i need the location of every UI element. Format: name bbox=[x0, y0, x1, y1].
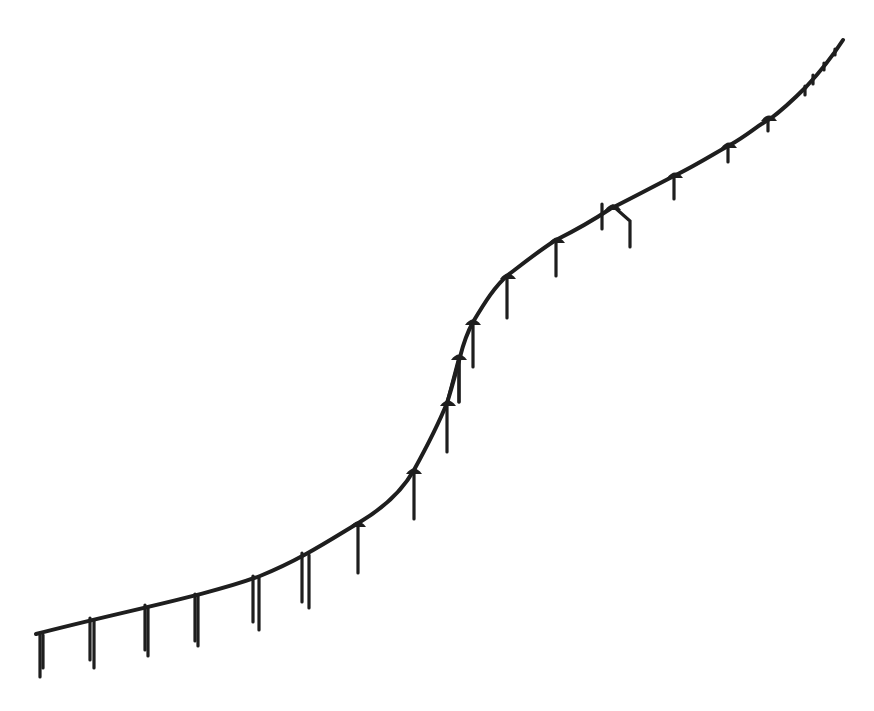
post-cap bbox=[451, 355, 467, 361]
post-caps bbox=[350, 116, 777, 528]
inclined-brace bbox=[447, 357, 459, 403]
cable-line bbox=[36, 40, 843, 634]
post-cap bbox=[350, 522, 366, 528]
post-cap bbox=[465, 320, 481, 326]
post-cap bbox=[500, 274, 516, 280]
bent-support-post bbox=[613, 206, 630, 247]
sketch-canvas bbox=[0, 0, 874, 711]
post-cap bbox=[440, 401, 456, 407]
support-posts bbox=[40, 49, 835, 677]
post-cap bbox=[406, 469, 422, 475]
